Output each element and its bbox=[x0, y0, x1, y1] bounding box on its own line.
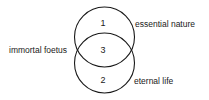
label-essential-nature: essential nature bbox=[135, 19, 195, 29]
region-number-3: 3 bbox=[97, 45, 109, 55]
label-immortal-foetus: immortal foetus bbox=[9, 45, 67, 55]
region-number-1: 1 bbox=[97, 18, 109, 28]
circle-top bbox=[75, 7, 135, 67]
region-number-2: 2 bbox=[97, 75, 109, 85]
label-eternal-life: eternal life bbox=[134, 76, 173, 86]
